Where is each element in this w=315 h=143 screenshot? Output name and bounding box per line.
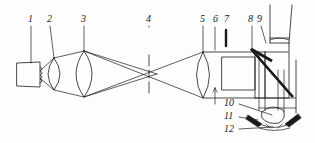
left-wedge-mirror [246, 115, 262, 127]
callout-6: 6 [213, 14, 218, 24]
callout-3: 3 [81, 14, 86, 24]
callout-11: 11 [224, 111, 233, 121]
callout-7: 7 [224, 14, 229, 24]
observation-tube [270, 5, 292, 43]
leader-2 [50, 26, 54, 58]
tube-fold-mirror [250, 49, 293, 97]
light-source [17, 62, 42, 87]
tube-right-wall [289, 43, 296, 113]
right-wedge-mirror [285, 114, 301, 127]
leader-10 [239, 104, 272, 115]
callout-8: 8 [248, 14, 253, 24]
callout-5: 5 [200, 14, 205, 24]
optical-diagram-figure: 1 2 3 4 5 6 7 8 9 10 11 12 [0, 0, 315, 143]
ray-bundle-source-to-condenser [41, 58, 54, 90]
leader-12 [239, 127, 273, 129]
leader-lines-top [31, 26, 266, 63]
callout-2: 2 [47, 14, 52, 24]
callout-10: 10 [224, 98, 234, 108]
ray-bundle-crossing [84, 51, 203, 98]
leader-9 [261, 26, 266, 43]
diaphragm-box [222, 57, 255, 90]
housing-bottom-ties [255, 98, 296, 108]
collector-lens [76, 51, 92, 97]
lower-prism [262, 107, 284, 124]
callout-1: 1 [28, 14, 33, 24]
callout-12: 12 [224, 124, 234, 134]
callout-4: 4 [146, 14, 151, 24]
callout-9: 9 [257, 14, 262, 24]
projection-lens [197, 52, 210, 98]
condenser-lens [48, 58, 60, 90]
